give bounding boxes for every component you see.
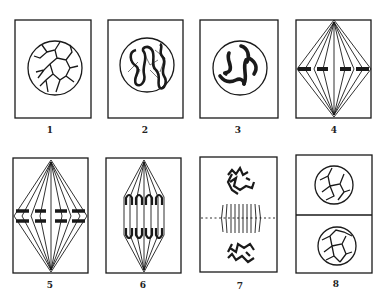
daughter-nucleus-top bbox=[315, 166, 353, 204]
panel-1 bbox=[15, 20, 91, 118]
panel-label-7: 7 bbox=[237, 281, 243, 291]
anaphase-spindle bbox=[124, 160, 164, 272]
panel-label-4: 4 bbox=[331, 125, 337, 135]
panel-7 bbox=[200, 157, 277, 272]
panel-label-1: 1 bbox=[47, 125, 53, 135]
daughter-nucleus-bottom bbox=[318, 227, 356, 265]
panel-3-frame bbox=[200, 20, 278, 118]
panel-6-frame bbox=[106, 158, 181, 273]
panel-2 bbox=[108, 20, 183, 118]
panel-label-2: 2 bbox=[142, 125, 148, 135]
spireme-nucleus bbox=[120, 38, 174, 92]
panel-2-frame bbox=[108, 20, 183, 118]
panel-1-frame bbox=[15, 20, 91, 118]
panel-4 bbox=[296, 20, 371, 118]
panel-5-frame bbox=[13, 158, 88, 273]
panel-6 bbox=[106, 158, 181, 273]
panel-5 bbox=[13, 158, 88, 273]
spindle-remnant bbox=[222, 204, 261, 233]
resting-nucleus bbox=[28, 41, 82, 95]
panel-7-frame bbox=[200, 157, 277, 272]
panel-label-3: 3 bbox=[235, 125, 241, 135]
telophase bbox=[201, 168, 276, 262]
mitosis-diagram: 1 2 3 4 5 6 7 8 bbox=[0, 0, 385, 298]
split-metaphase-spindle bbox=[14, 160, 87, 272]
panel-3 bbox=[200, 20, 278, 118]
panel-label-8: 8 bbox=[333, 279, 339, 289]
condensed-chromosomes bbox=[213, 41, 267, 95]
panel-8 bbox=[296, 155, 372, 273]
panel-label-5: 5 bbox=[47, 280, 53, 290]
metaphase-spindle bbox=[297, 20, 371, 117]
panel-label-6: 6 bbox=[140, 280, 146, 290]
